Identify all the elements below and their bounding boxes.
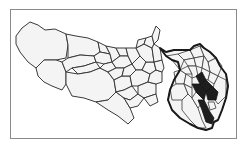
municipality-hinohara: [36, 60, 66, 90]
municipality-tama-east-strip: [152, 26, 160, 44]
tama-area: [16, 22, 164, 124]
tokyo-map: [0, 0, 251, 149]
municipality-higashikurume: [152, 44, 162, 62]
municipality-ome: [66, 34, 100, 58]
